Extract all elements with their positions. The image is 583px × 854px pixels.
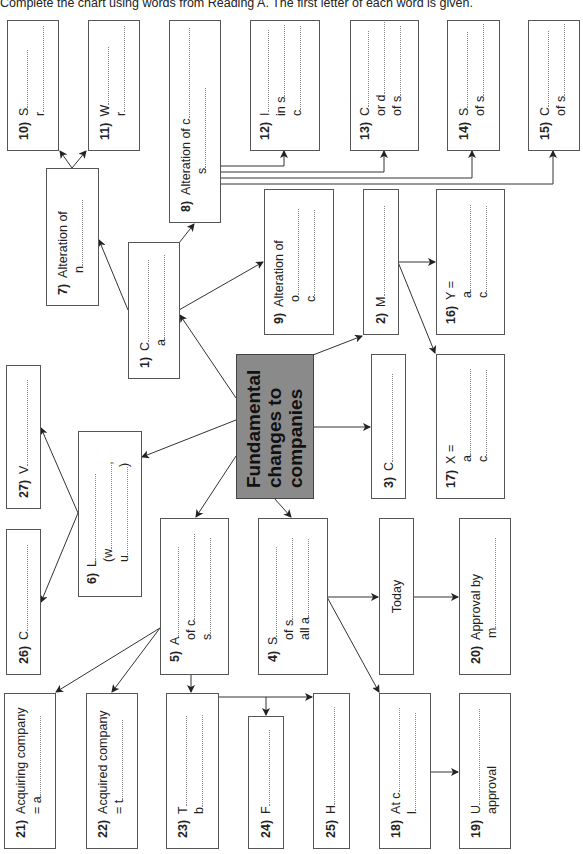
box-number: 10) [17, 122, 31, 140]
box-13: 13)C or d of s [350, 20, 419, 151]
box-8: 8)Alteration of c s [169, 20, 221, 223]
box-3: 3)C [371, 354, 406, 499]
box-16: 16)Y = a c [436, 189, 505, 335]
center-line-3: companies [285, 389, 306, 488]
center-line-1: Fundamental [243, 370, 264, 488]
box-10: 10)S r [7, 20, 59, 151]
box-25: 25)H [313, 693, 350, 849]
box-22: 22)Acquired company = t [86, 693, 138, 849]
box-7: 7)Alteration of n [46, 168, 99, 306]
box-2: 2)M [363, 189, 399, 335]
box-23: 23)T b [166, 693, 219, 849]
center-line-2: changes to [264, 388, 285, 488]
today-label: Today [390, 580, 404, 613]
box-24: 24)F [248, 716, 284, 849]
central-topic-box: Fundamental changes to companies [236, 354, 314, 499]
box-18: 18)At c l [379, 693, 431, 849]
box-14: 14)S of s [447, 20, 500, 151]
box-17: 17)X = a c [436, 354, 505, 499]
box-27: 27)V [6, 365, 41, 509]
box-20: 20)Approval by m [459, 518, 511, 675]
box-26: 26)C [6, 529, 41, 675]
box-9: 9)Alteration of o c [264, 189, 334, 335]
box-15: 15)C of s [528, 20, 580, 151]
box-4: 4)S of s all a [258, 518, 328, 675]
today-box: Today [379, 518, 414, 675]
box-11: 11)W r [88, 20, 140, 151]
box-5: 5)A of c s [160, 518, 229, 675]
box-21: 21)Acquiring company = a [4, 693, 56, 849]
box-1: 1)C a [128, 242, 180, 379]
box-19: 19)U approval [459, 693, 511, 849]
box-6: 6)L (w, u) [78, 431, 142, 597]
box-12: 12)I in s c [250, 20, 320, 151]
